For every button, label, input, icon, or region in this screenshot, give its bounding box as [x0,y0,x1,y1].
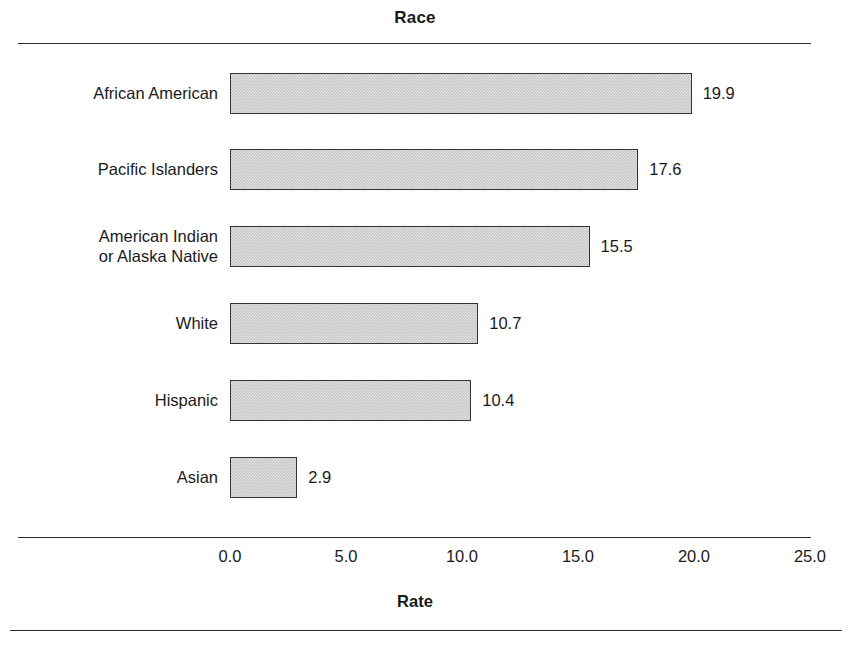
bar-row: Asian2.9 [0,457,851,498]
chart-figure: Race African American19.9Pacific Islande… [0,0,851,648]
bar-row: Pacific Islanders17.6 [0,149,851,190]
x-axis-line [18,537,811,538]
bar [230,149,638,190]
bar [230,457,297,498]
bar-row: Hispanic10.4 [0,380,851,421]
category-label: American Indian or Alaska Native [0,226,218,266]
bar [230,380,471,421]
category-label: White [0,313,218,333]
bar-value-label: 2.9 [308,467,331,487]
bar [230,73,692,114]
category-label: Pacific Islanders [0,159,218,179]
bar-row: American Indian or Alaska Native15.5 [0,226,851,267]
x-tick-label: 5.0 [316,547,376,566]
plot-area: African American19.9Pacific Islanders17.… [0,0,851,537]
x-tick-label: 0.0 [200,547,260,566]
bar-value-label: 15.5 [601,236,633,256]
bar [230,226,590,267]
bottom-divider-rule [10,630,842,631]
x-tick-label: 15.0 [548,547,608,566]
category-label: African American [0,83,218,103]
x-tick-label: 10.0 [432,547,492,566]
x-tick-label: 20.0 [664,547,724,566]
x-axis-title: Rate [0,592,830,611]
bar-value-label: 10.4 [482,390,514,410]
bar-row: White10.7 [0,303,851,344]
x-tick-label: 25.0 [780,547,840,566]
bar-value-label: 10.7 [489,313,521,333]
bar-value-label: 17.6 [649,159,681,179]
bar [230,303,478,344]
bar-value-label: 19.9 [703,83,735,103]
bar-row: African American19.9 [0,73,851,114]
category-label: Asian [0,467,218,487]
category-label: Hispanic [0,390,218,410]
